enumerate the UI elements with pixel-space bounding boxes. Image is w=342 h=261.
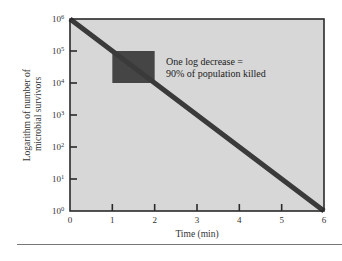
y-tick-label: 104: [52, 77, 65, 89]
y-tick-label: 105: [52, 45, 64, 57]
y-tick-label: 100: [52, 205, 64, 217]
x-tick-label: 5: [279, 215, 284, 225]
x-tick-label: 3: [195, 215, 200, 225]
y-tick-label: 102: [52, 141, 64, 153]
y-tick-label: 101: [52, 173, 64, 185]
x-tick-label: 2: [152, 215, 157, 225]
x-tick-label: 6: [322, 215, 327, 225]
x-tick-label: 0: [68, 215, 73, 225]
survivor-curve-chart: 100101102103104105106 0123456 One log de…: [0, 0, 342, 261]
y-axis-title: Logarithm of number of microbial survivo…: [22, 67, 43, 161]
y-tick-label: 106: [52, 13, 65, 25]
x-axis-title: Time (min): [175, 229, 218, 240]
y-tick-label: 103: [52, 109, 64, 121]
caption-divider: [17, 244, 342, 245]
x-tick-label: 4: [237, 215, 242, 225]
x-tick-label: 1: [110, 215, 115, 225]
